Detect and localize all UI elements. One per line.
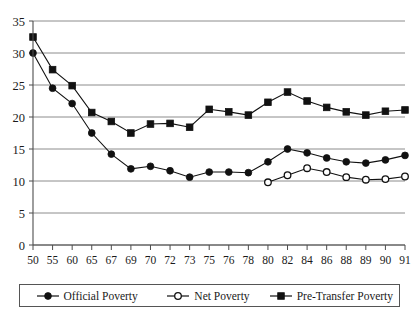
data-point-marker <box>225 169 232 176</box>
x-axis-tick-label: 50 <box>27 254 39 266</box>
data-point-marker <box>323 104 330 111</box>
data-point-marker <box>284 146 291 153</box>
series-official-poverty <box>30 50 409 181</box>
y-axis-tick-label: 10 <box>13 175 26 189</box>
data-point-marker <box>265 179 272 186</box>
x-axis-tick-label: 73 <box>184 254 196 266</box>
y-axis-tick-label: 20 <box>13 111 26 125</box>
x-axis-tick-label: 82 <box>282 254 294 266</box>
y-axis-tick-label: 5 <box>19 207 25 221</box>
x-axis-tick-label: 65 <box>86 254 98 266</box>
data-point-marker <box>206 169 213 176</box>
poverty-trends-figure: 05101520253035 5055606567697072737576788… <box>0 0 418 313</box>
legend-marker <box>175 292 182 299</box>
x-axis-tick-label: 69 <box>125 254 137 266</box>
x-axis-tick-label: 60 <box>66 254 78 266</box>
x-axis-tick-labels: 5055606567697072737576788082848688899091 <box>27 254 411 266</box>
data-point-marker <box>147 163 154 170</box>
x-axis-tick-label: 80 <box>262 254 274 266</box>
data-point-marker <box>284 89 291 96</box>
x-axis-tick-label: 72 <box>164 254 176 266</box>
legend-marker-filled-circle-icon <box>36 290 60 302</box>
data-point-marker <box>167 167 174 174</box>
legend-item-label: Official Poverty <box>64 290 138 302</box>
legend-marker-filled-square-icon <box>269 290 293 302</box>
legend-item[interactable]: Pre-Transfer Poverty <box>269 290 393 302</box>
x-axis-tick-label: 89 <box>360 254 372 266</box>
data-point-marker <box>186 124 193 131</box>
chart-legend: Official PovertyNet PovertyPre-Transfer … <box>19 284 400 307</box>
legend-marker-open-circle-icon <box>166 290 190 302</box>
data-point-marker <box>402 173 409 180</box>
data-point-marker <box>147 121 154 128</box>
x-axis-tick-label: 88 <box>341 254 353 266</box>
data-point-marker <box>128 130 135 137</box>
y-axis-tick-label: 30 <box>13 47 26 61</box>
data-point-marker <box>362 160 369 167</box>
data-point-marker <box>69 100 76 107</box>
data-point-marker <box>245 112 252 119</box>
data-point-marker <box>343 109 350 116</box>
data-point-marker <box>363 176 370 183</box>
data-point-marker <box>167 120 174 127</box>
data-point-marker <box>382 156 389 163</box>
x-axis-tick-label: 84 <box>301 254 313 266</box>
legend-item[interactable]: Net Poverty <box>147 290 268 302</box>
x-axis-tick-label: 55 <box>47 254 59 266</box>
data-point-marker <box>284 172 291 179</box>
gridlines <box>29 21 405 245</box>
data-point-marker <box>88 130 95 137</box>
data-point-marker <box>304 165 311 172</box>
legend-marker <box>277 292 284 299</box>
data-point-marker <box>108 151 115 158</box>
legend-marker <box>44 292 51 299</box>
x-axis-tick-label: 75 <box>203 254 215 266</box>
legend-item[interactable]: Official Poverty <box>26 290 147 302</box>
data-point-marker <box>88 109 95 116</box>
data-point-marker <box>49 85 56 92</box>
data-point-marker <box>69 82 76 89</box>
data-point-marker <box>206 106 213 113</box>
data-point-marker <box>323 169 330 176</box>
x-axis-tick-label: 86 <box>321 254 333 266</box>
data-point-marker <box>304 98 311 105</box>
series-net-poverty <box>265 165 409 186</box>
legend-item-label: Pre-Transfer Poverty <box>297 290 393 302</box>
data-point-marker <box>108 118 115 125</box>
x-axis-tick-label: 76 <box>223 254 235 266</box>
x-axis-tick-label: 91 <box>399 254 411 266</box>
data-point-marker <box>265 158 272 165</box>
data-point-marker <box>225 109 232 116</box>
data-point-marker <box>49 66 56 73</box>
data-point-marker <box>127 165 134 172</box>
data-point-marker <box>304 149 311 156</box>
data-point-marker <box>363 112 370 119</box>
data-series-group <box>30 34 409 186</box>
x-axis-tick-label: 70 <box>145 254 157 266</box>
legend-item-label: Net Poverty <box>194 290 249 302</box>
data-point-marker <box>343 158 350 165</box>
y-axis-tick-labels: 05101520253035 <box>13 15 26 253</box>
x-axis-tick-label: 67 <box>106 254 118 266</box>
data-point-marker <box>265 99 272 106</box>
data-point-marker <box>402 152 409 159</box>
x-axis-tick-label: 78 <box>243 254 255 266</box>
y-axis-tick-label: 35 <box>13 15 26 29</box>
data-point-marker <box>245 169 252 176</box>
x-axis-tick-marks <box>33 245 405 250</box>
data-point-marker <box>323 155 330 162</box>
data-point-marker <box>402 107 409 114</box>
y-axis-tick-label: 15 <box>13 143 26 157</box>
data-point-marker <box>382 176 389 183</box>
poverty-line-chart: 05101520253035 5055606567697072737576788… <box>0 0 418 313</box>
y-axis-tick-label: 0 <box>19 239 25 253</box>
y-axis-tick-label: 25 <box>13 79 26 93</box>
data-point-marker <box>382 108 389 115</box>
data-point-marker <box>343 174 350 181</box>
data-point-marker <box>186 174 193 181</box>
x-axis-tick-label: 90 <box>380 254 392 266</box>
